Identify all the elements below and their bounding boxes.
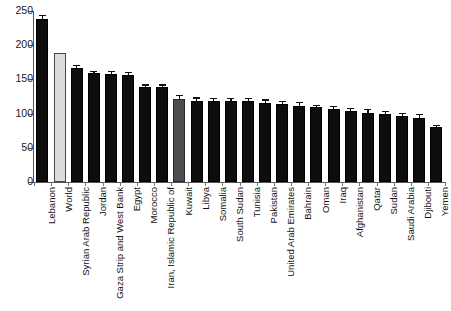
x-tick-mark xyxy=(342,182,343,186)
error-bar-cap xyxy=(296,102,303,103)
bar-group xyxy=(257,11,274,182)
y-tick-label: 150 xyxy=(7,73,33,84)
y-tick-label: 50 xyxy=(7,142,33,153)
bar xyxy=(362,113,374,182)
error-bar xyxy=(93,72,94,73)
error-bar xyxy=(402,114,403,116)
bar xyxy=(242,101,254,182)
bar xyxy=(71,68,83,182)
bar xyxy=(88,73,100,182)
x-tick-mark xyxy=(359,182,360,186)
error-bar xyxy=(385,112,386,113)
error-bar xyxy=(248,99,249,101)
x-axis-label: Gaza Strip and West Bank xyxy=(115,187,125,299)
bar xyxy=(310,107,322,182)
bar xyxy=(156,87,168,182)
error-bar xyxy=(145,86,146,87)
bar-group xyxy=(188,11,205,182)
bar xyxy=(379,114,391,182)
x-axis-label: Bahrain xyxy=(303,187,313,220)
x-axis-label: Sudan xyxy=(389,187,399,214)
error-bar-cap xyxy=(210,98,217,99)
bar xyxy=(345,111,357,182)
error-bar xyxy=(367,110,368,113)
x-tick-mark xyxy=(68,182,69,186)
x-tick-mark xyxy=(274,182,275,186)
x-tick-mark xyxy=(171,182,172,186)
x-tick-mark xyxy=(188,182,189,186)
bar xyxy=(293,106,305,182)
x-axis-label: Tunisia xyxy=(252,187,262,217)
x-tick-mark xyxy=(291,182,292,186)
error-bar-cap xyxy=(39,15,46,16)
x-tick-mark xyxy=(222,182,223,186)
y-tick: 100 xyxy=(0,114,33,115)
bar-group xyxy=(411,11,428,182)
x-tick-mark xyxy=(154,182,155,186)
error-bar-cap xyxy=(193,97,200,98)
x-tick-mark xyxy=(411,182,412,186)
bar xyxy=(430,127,442,182)
error-bar xyxy=(265,101,266,104)
x-axis-label: Djibouti xyxy=(423,187,433,219)
x-tick-mark xyxy=(103,182,104,186)
y-tick: 0 xyxy=(0,182,33,183)
x-axis-label: Egypt xyxy=(132,187,142,211)
bar-group xyxy=(428,11,445,182)
error-bar-cap xyxy=(279,101,286,102)
bar xyxy=(54,53,66,182)
error-bar-cap xyxy=(433,125,440,126)
error-bar xyxy=(42,16,43,19)
bar-group xyxy=(377,11,394,182)
y-tick: 150 xyxy=(0,79,33,80)
error-bar xyxy=(196,99,197,101)
x-tick-mark xyxy=(240,182,241,186)
x-tick-mark xyxy=(85,182,86,186)
error-bar-cap xyxy=(142,84,149,85)
bar-group xyxy=(68,11,85,182)
x-tick-mark xyxy=(205,182,206,186)
bar-group xyxy=(137,11,154,182)
error-bar-cap xyxy=(330,106,337,107)
bar-group xyxy=(342,11,359,182)
bar-group xyxy=(222,11,239,182)
error-bar-cap xyxy=(245,98,252,99)
x-tick-mark xyxy=(377,182,378,186)
x-axis-label: Qatar xyxy=(372,187,382,211)
error-bar xyxy=(179,96,180,99)
bar-group xyxy=(154,11,171,182)
bar xyxy=(276,104,288,182)
x-axis-labels: LebanonWorldSyrian Arab RepublicJordanGa… xyxy=(34,187,445,311)
bar xyxy=(173,99,185,182)
bar xyxy=(259,103,271,182)
error-bar xyxy=(316,106,317,107)
x-tick-mark xyxy=(257,182,258,186)
bar xyxy=(122,75,134,182)
error-bar-cap xyxy=(364,109,371,110)
y-tick-label: 100 xyxy=(7,108,33,119)
bar-group xyxy=(359,11,376,182)
error-bar xyxy=(230,99,231,100)
error-bar xyxy=(128,73,129,74)
error-bar-cap xyxy=(399,113,406,114)
error-bar xyxy=(333,107,334,108)
bar xyxy=(139,87,151,182)
bar-group xyxy=(171,11,188,182)
x-axis-label: Libya xyxy=(201,187,211,210)
bar-group xyxy=(85,11,102,182)
error-bar xyxy=(162,86,163,87)
x-axis-label: Afghanistan xyxy=(355,187,365,237)
error-bar-cap xyxy=(416,114,423,115)
error-bar-cap xyxy=(159,84,166,85)
bar-group xyxy=(240,11,257,182)
x-tick-mark xyxy=(445,182,446,186)
bar xyxy=(36,19,48,182)
x-tick-mark xyxy=(51,182,52,186)
x-axis-label: United Arab Emirates xyxy=(286,187,296,277)
bar xyxy=(396,116,408,182)
x-axis-label: Oman xyxy=(321,187,331,213)
x-tick-mark xyxy=(325,182,326,186)
error-bar-cap xyxy=(90,71,97,72)
x-axis-label: Jordan xyxy=(98,187,108,216)
bar-group xyxy=(394,11,411,182)
